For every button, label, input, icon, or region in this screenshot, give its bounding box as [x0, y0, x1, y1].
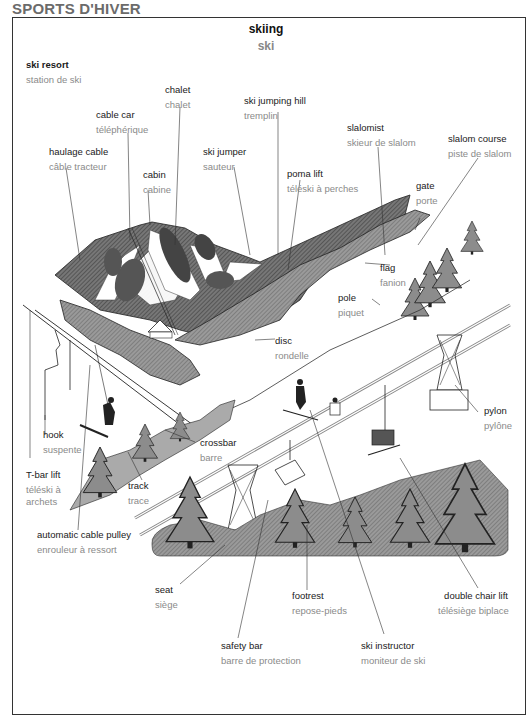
- label-ski-instructor: ski instructor moniteur de ski: [361, 640, 425, 667]
- label-disc: disc rondelle: [275, 335, 309, 362]
- foreground-forest: [152, 460, 508, 556]
- label-ski-jumper: ski jumper sauteur: [203, 146, 246, 173]
- label-chalet: chalet chalet: [165, 84, 190, 111]
- label-crossbar: crossbar barre: [200, 437, 236, 464]
- title-french: ski: [0, 39, 532, 53]
- label-cable-car: cable car téléphérique: [96, 109, 148, 136]
- label-flag: flag fanion: [380, 262, 406, 289]
- mountain: [55, 195, 430, 385]
- label-safety-bar: safety bar barre de protection: [221, 640, 301, 667]
- label-slalom-course: slalom course piste de slalom: [448, 133, 511, 160]
- child-skier-figure: [330, 398, 340, 416]
- label-pylon: pylon pylône: [484, 405, 512, 432]
- slalom-trees: [401, 221, 483, 320]
- label-hook: hook suspente: [43, 429, 82, 456]
- label-gate: gate porte: [416, 180, 438, 207]
- title-english: skiing: [0, 22, 532, 36]
- label-track: track trace: [128, 480, 149, 507]
- t-bar-skier: [80, 345, 115, 437]
- label-double-chair-lift: double chair lift télésiège biplace: [438, 590, 508, 617]
- label-ski-jumping-hill: ski jumping hill tremplin: [244, 95, 306, 122]
- label-poma-lift: poma lift téléski à perches: [287, 168, 358, 195]
- label-pole: pole piquet: [338, 292, 364, 319]
- label-seat: seat siège: [155, 584, 178, 611]
- label-ski-resort: ski resort station de ski: [26, 59, 81, 86]
- label-t-bar-lift: T-bar lift téléski à archets: [26, 469, 61, 508]
- label-slalomist: slalomist skieur de slalom: [347, 122, 416, 149]
- leader-lines: [30, 107, 478, 638]
- main-title: skiing ski: [0, 22, 532, 53]
- label-footrest: footrest repose-pieds: [292, 590, 347, 617]
- ski-instructor-figure: [283, 379, 318, 420]
- label-automatic-cable-pulley: automatic cable pulley enrouleur à resso…: [37, 529, 131, 556]
- empty-chair: [275, 440, 305, 485]
- label-cabin: cabin cabine: [143, 169, 171, 196]
- label-haulage-cable: haulage cable câble tracteur: [49, 146, 108, 173]
